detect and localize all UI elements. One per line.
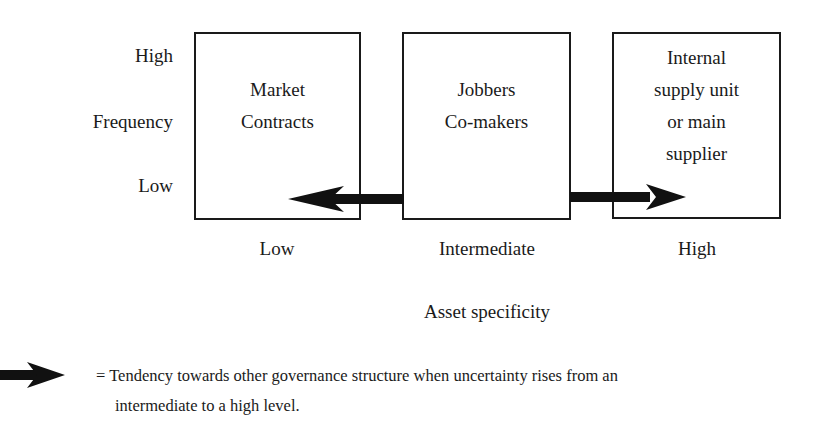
x-axis-high-label: High [617,238,777,260]
arrow-left-icon [288,186,404,212]
legend-arrow-icon [0,362,65,388]
x-axis-low-label: Low [197,238,357,260]
x-axis-title: Asset specificity [387,301,587,323]
legend-line2: intermediate to a high level. [115,391,300,421]
legend-line1: = Tendency towards other governance stru… [96,361,618,391]
x-axis-intermediate-label: Intermediate [407,238,567,260]
arrow-right-icon [570,184,686,210]
